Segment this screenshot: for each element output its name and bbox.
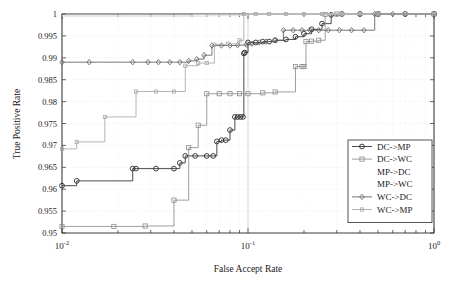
- chart-svg: 0.950.9550.960.9650.970.9750.980.9850.99…: [0, 0, 453, 288]
- legend-label: MP->DC: [377, 167, 411, 177]
- y-axis-ticklabels: 0.950.9550.960.9650.970.9750.980.9850.99…: [38, 9, 57, 238]
- y-tick-label: 0.965: [38, 162, 57, 172]
- roc-chart-figure: 0.950.9550.960.9650.970.9750.980.9850.99…: [0, 0, 453, 288]
- legend-label: DC->MP: [377, 142, 411, 152]
- y-tick-label: 1: [53, 9, 57, 19]
- y-tick-label: 0.99: [42, 53, 57, 63]
- y-tick-label: 0.96: [42, 184, 57, 194]
- y-tick-label: 0.955: [38, 206, 57, 216]
- x-tick-label: 100: [428, 239, 440, 251]
- y-axis-label: True Positive Rate: [12, 89, 22, 159]
- y-tick-label: 0.985: [38, 75, 57, 85]
- y-tick-label: 0.995: [38, 31, 57, 41]
- legend-item-mp-wc[interactable]: MP->WC: [377, 179, 413, 189]
- y-tick-label: 0.975: [38, 119, 57, 129]
- legend: DC->MPDC->WCMP->DCMP->WCWC->DCWC->MP: [348, 140, 432, 223]
- y-tick-label: 0.97: [42, 140, 57, 150]
- x-axis-label: False Accept Rate: [214, 264, 283, 274]
- y-tick-label: 0.95: [42, 228, 57, 238]
- x-tick-label: 10-2: [55, 239, 69, 251]
- legend-label: DC->WC: [377, 154, 412, 164]
- x-tick-label: 10-1: [241, 239, 255, 251]
- legend-item-mp-dc[interactable]: MP->DC: [377, 167, 411, 177]
- y-tick-label: 0.98: [42, 97, 57, 107]
- x-axis-ticklabels: 10-210-1100: [55, 239, 440, 251]
- legend-label: WC->DC: [377, 192, 412, 202]
- legend-label: WC->MP: [377, 205, 413, 215]
- legend-label: MP->WC: [377, 179, 413, 189]
